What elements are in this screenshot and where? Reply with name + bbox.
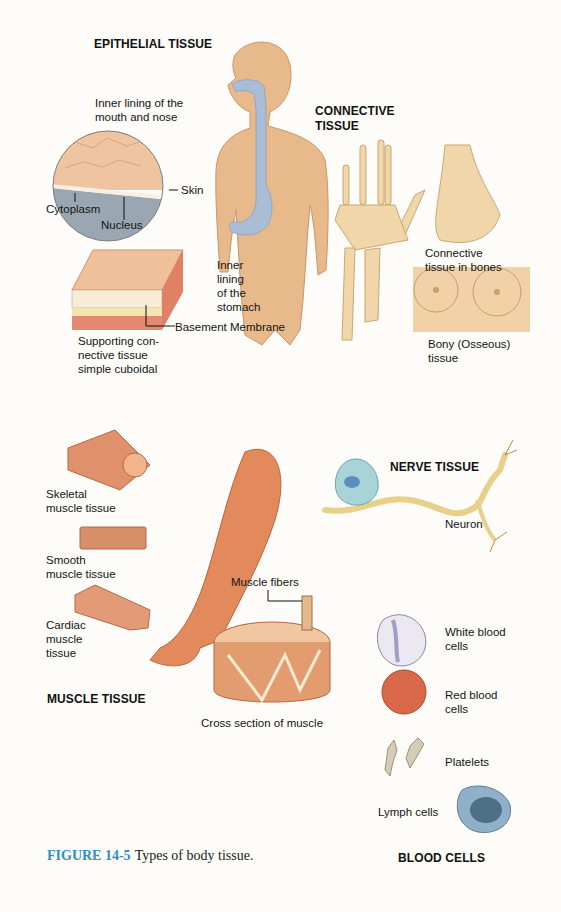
label-basement-membrane: Basement Membrane xyxy=(175,320,285,334)
label-cross-section: Cross section of muscle xyxy=(201,716,323,730)
label-bones: Connective tissue in bones xyxy=(425,246,502,274)
heading-nerve: NERVE TISSUE xyxy=(390,460,479,475)
label-mouth-nose: Inner lining of the mouth and nose xyxy=(95,96,183,124)
heading-muscle: MUSCLE TISSUE xyxy=(47,692,146,707)
label-bony-osseous: Bony (Osseous) tissue xyxy=(428,337,510,365)
label-muscle-fibers: Muscle fibers xyxy=(231,575,299,589)
red-blood-cell xyxy=(382,670,426,714)
label-white-blood-cells: White blood cells xyxy=(445,625,506,653)
cardiac-muscle-bundle xyxy=(75,585,150,630)
label-skin: Skin xyxy=(181,183,203,197)
platelets xyxy=(385,738,424,776)
label-cardiac-muscle: Cardiac muscle tissue xyxy=(46,618,86,660)
white-blood-cell xyxy=(377,615,425,666)
heading-epithelial: EPITHELIAL TISSUE xyxy=(94,37,212,52)
neuron-illustration xyxy=(325,440,517,552)
lymph-nucleus xyxy=(470,797,502,823)
illustration-canvas xyxy=(0,0,561,912)
label-smooth-muscle: Smooth muscle tissue xyxy=(46,553,116,581)
hand-skeleton xyxy=(335,140,425,340)
label-stomach-lining: Inner lining of the stomach xyxy=(217,258,260,314)
skeletal-muscle-bundle xyxy=(68,430,150,490)
figure-number: FIGURE 14-5 xyxy=(47,848,131,863)
label-lymph-cells: Lymph cells xyxy=(378,805,438,819)
bone-end xyxy=(436,145,500,242)
label-red-blood-cells: Red blood cells xyxy=(445,688,497,716)
smooth-muscle-bundle xyxy=(80,527,146,549)
osseous-tissue-block xyxy=(413,267,530,332)
heading-connective: CONNECTIVE TISSUE xyxy=(315,104,395,134)
heading-blood: BLOOD CELLS xyxy=(398,851,485,866)
skin-magnifier xyxy=(50,130,178,250)
label-skeletal-muscle: Skeletal muscle tissue xyxy=(46,487,116,515)
label-platelets: Platelets xyxy=(445,755,489,769)
cuboidal-tissue-block xyxy=(72,250,183,330)
label-cytoplasm: Cytoplasm xyxy=(46,202,100,216)
figure-caption-text: Types of body tissue. xyxy=(135,848,254,863)
label-supporting-tissue: Supporting con- nective tissue simple cu… xyxy=(78,334,159,376)
label-neuron: Neuron xyxy=(445,517,483,531)
figure-caption: FIGURE 14-5Types of body tissue. xyxy=(47,848,253,864)
label-nucleus: Nucleus xyxy=(101,218,143,232)
